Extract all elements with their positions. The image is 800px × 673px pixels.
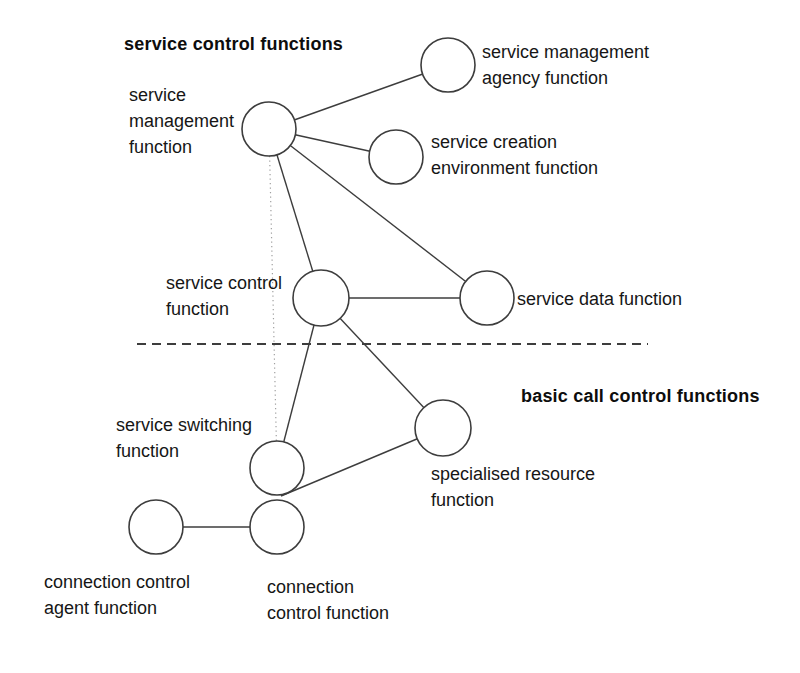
label-line: connection: [267, 574, 389, 600]
label-service-management-function: service management function: [129, 82, 234, 160]
label-line: service control: [166, 270, 282, 296]
label-line: function: [431, 487, 595, 513]
label-line: service switching: [116, 412, 252, 438]
label-service-switching-function: service switching function: [116, 412, 252, 464]
label-line: agent function: [44, 595, 190, 621]
label-service-management-agency-function: service management agency function: [482, 39, 649, 91]
edge-smf-smaf: [269, 65, 448, 129]
label-service-data-function: service data function: [517, 286, 682, 312]
label-line: service: [129, 82, 234, 108]
label-line: function: [166, 296, 282, 322]
label-line: service data function: [517, 286, 682, 312]
label-line: service management: [482, 39, 649, 65]
label-line: service creation: [431, 129, 598, 155]
label-connection-control-function: connection control function: [267, 574, 389, 626]
label-line: connection control: [44, 569, 190, 595]
node-circle-scef: [369, 130, 423, 184]
label-service-control-function: service control function: [166, 270, 282, 322]
node-circle-scf: [293, 270, 349, 326]
heading-basic-call-control-functions: basic call control functions: [521, 383, 760, 409]
label-line: specialised resource: [431, 461, 595, 487]
heading-service-control-functions: service control functions: [124, 31, 343, 57]
node-circle-smf: [242, 102, 296, 156]
label-specialised-resource-function: specialised resource function: [431, 461, 595, 513]
label-connection-control-agent-function: connection control agent function: [44, 569, 190, 621]
label-line: agency function: [482, 65, 649, 91]
label-line: management: [129, 108, 234, 134]
label-line: environment function: [431, 155, 598, 181]
node-circle-smaf: [421, 38, 475, 92]
label-line: control function: [267, 600, 389, 626]
diagram-page: service control functions basic call con…: [0, 0, 800, 673]
node-circle-ssf: [250, 441, 304, 495]
label-line: function: [129, 134, 234, 160]
node-circle-ccf: [250, 500, 304, 554]
label-service-creation-environment-function: service creation environment function: [431, 129, 598, 181]
node-circle-ccaf: [129, 500, 183, 554]
label-line: function: [116, 438, 252, 464]
node-circle-srf: [415, 400, 471, 456]
node-circle-sdf: [460, 271, 514, 325]
